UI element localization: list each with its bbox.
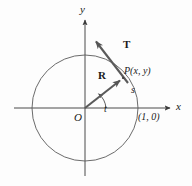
arc-length-label-s: s	[131, 85, 135, 95]
origin-label: O	[74, 112, 82, 123]
x-axis-label: x	[176, 101, 181, 112]
point-p-marker	[122, 77, 124, 79]
vector-r-line	[85, 81, 120, 109]
figure-canvas	[0, 0, 192, 186]
point-p-label: P(x, y)	[124, 66, 151, 76]
vector-r-label: R	[98, 70, 106, 81]
unit-point-label: (1, 0)	[138, 112, 160, 122]
vector-t-label: T	[123, 39, 130, 50]
unit-circle-figure: y x O t s R T P(x, y) (1, 0)	[0, 0, 192, 186]
y-axis-label: y	[80, 4, 85, 15]
angle-label-t: t	[104, 104, 107, 114]
